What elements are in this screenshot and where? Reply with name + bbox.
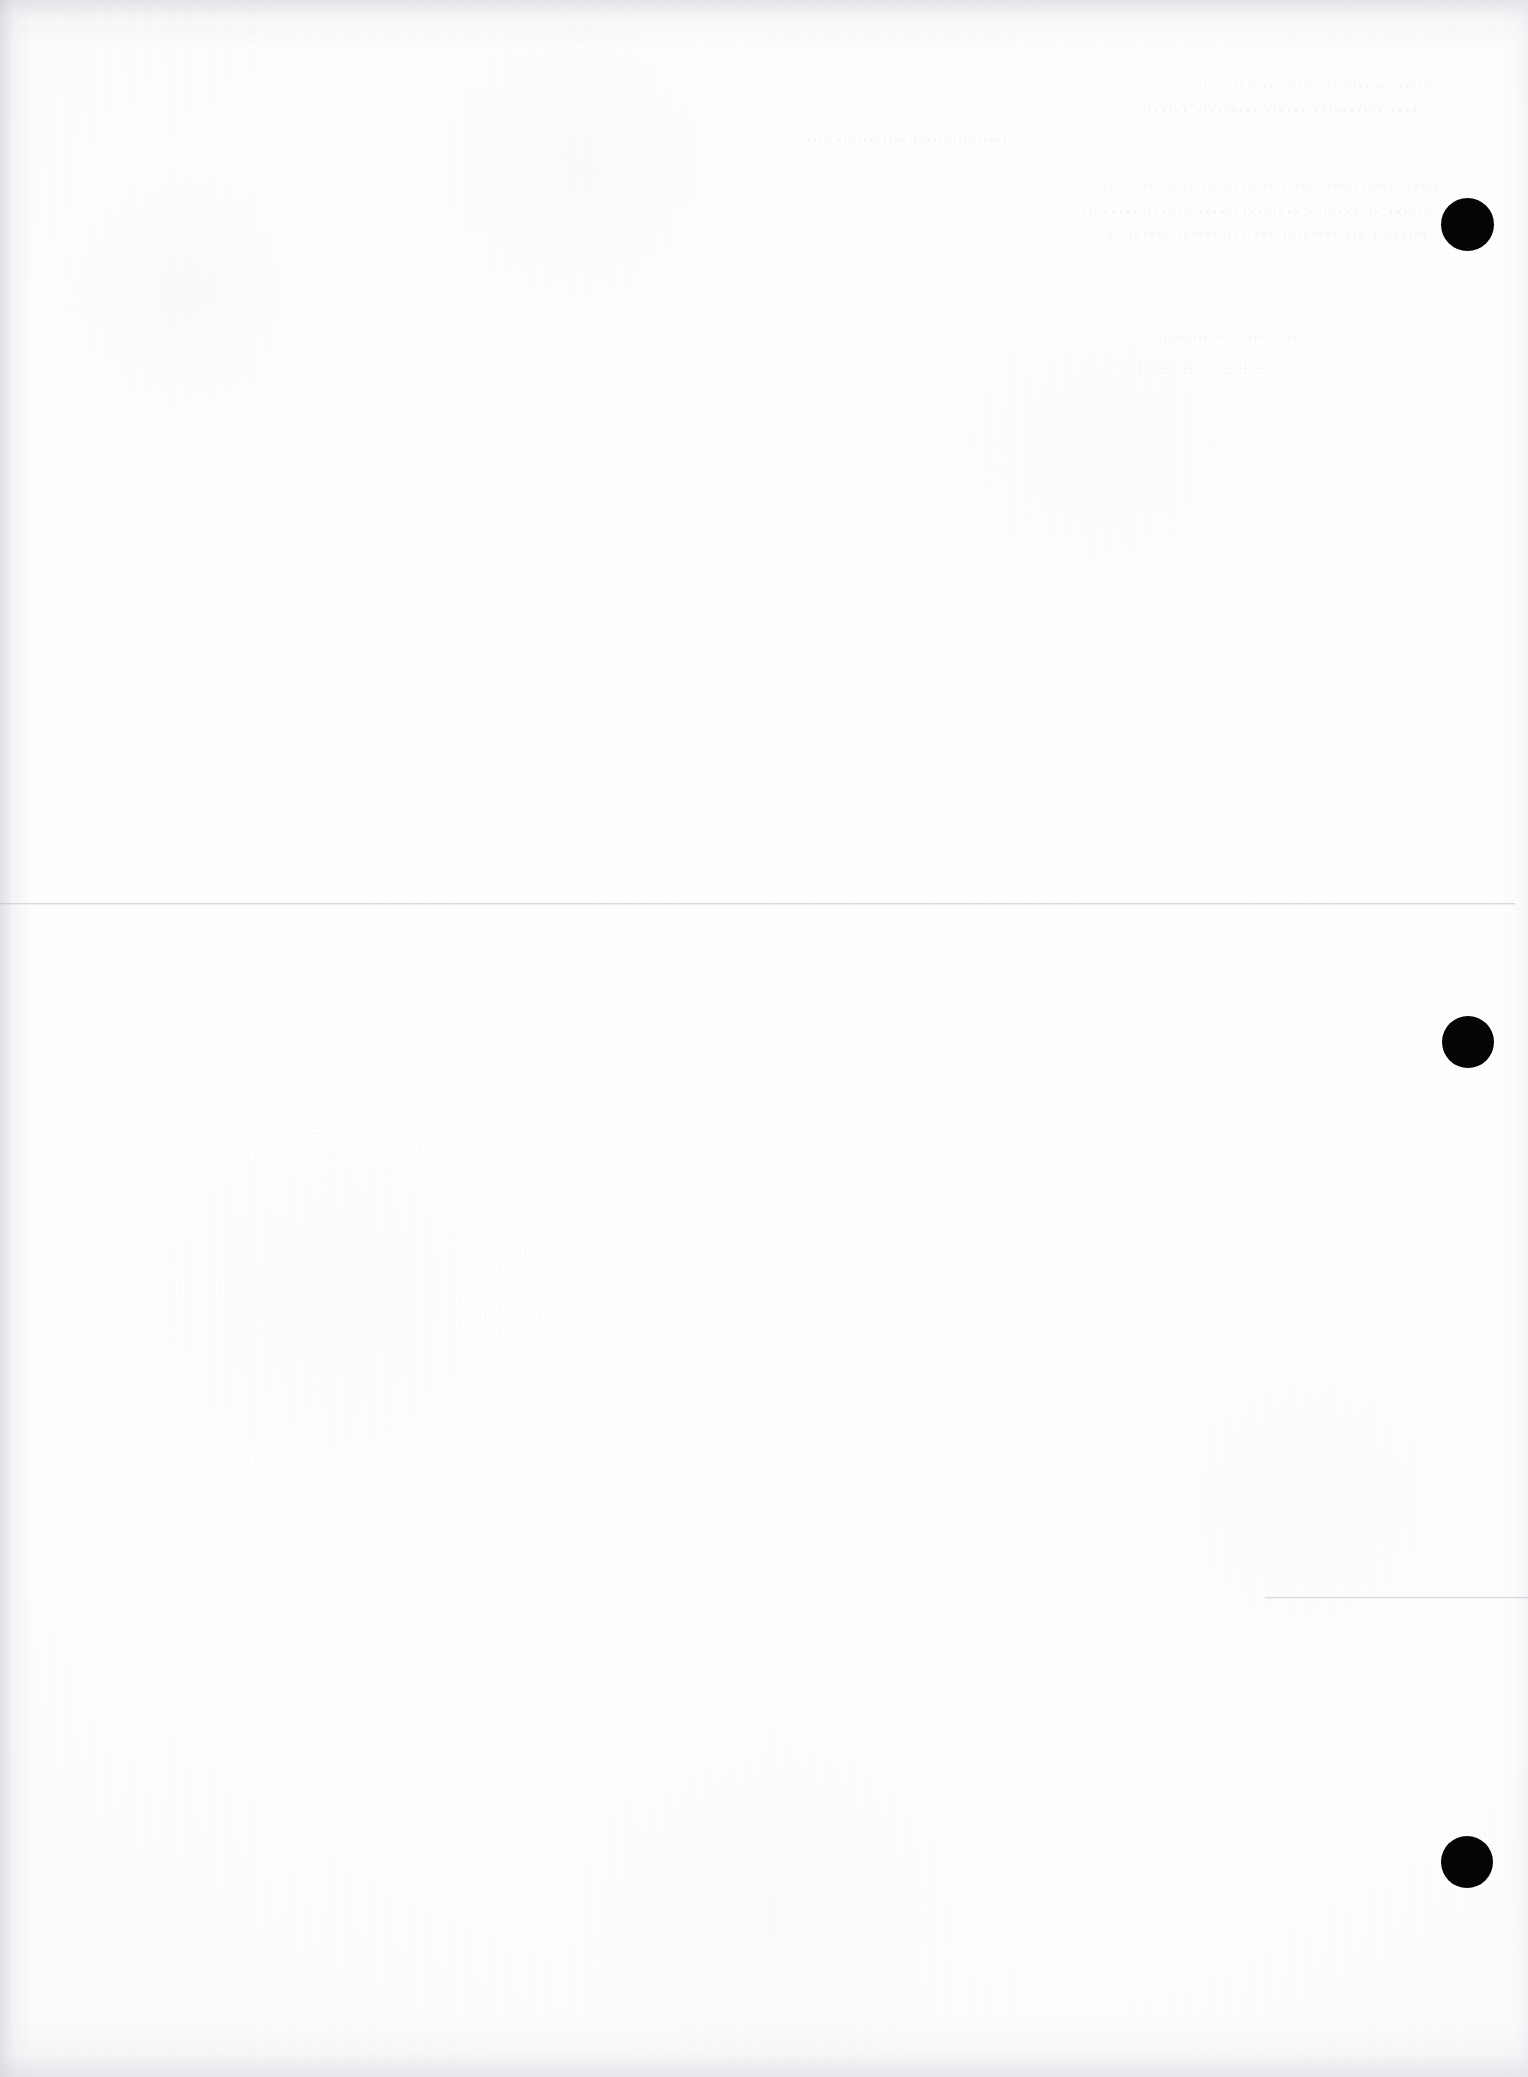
scanned-page: · ····· ·· ········ ···· ······ ··· ····… [0,0,1528,2077]
paper-background [0,0,1528,2077]
registration-dot [1441,1836,1493,1888]
registration-dot [1442,1016,1494,1068]
registration-dot [1441,198,1494,251]
